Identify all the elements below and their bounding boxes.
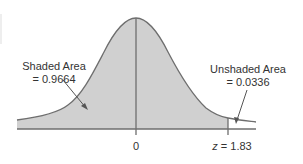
tick-label-zero: 0 xyxy=(130,140,142,153)
unshaded-area-title: Unshaded Area xyxy=(206,63,290,76)
unshaded-area-value: = 0.0336 xyxy=(206,76,290,89)
shaded-area-title: Shaded Area xyxy=(18,60,90,73)
unshaded-arrow xyxy=(234,90,247,124)
normal-distribution-figure: Shaded Area = 0.9664 Unshaded Area = 0.0… xyxy=(0,0,303,164)
tick-label-z: z = 1.83 xyxy=(207,140,257,153)
shaded-area-value: = 0.9664 xyxy=(18,73,90,86)
z-value: = 1.83 xyxy=(218,140,252,152)
unshaded-area-label: Unshaded Area = 0.0336 xyxy=(206,63,290,89)
shaded-area-label: Shaded Area = 0.9664 xyxy=(18,60,90,86)
